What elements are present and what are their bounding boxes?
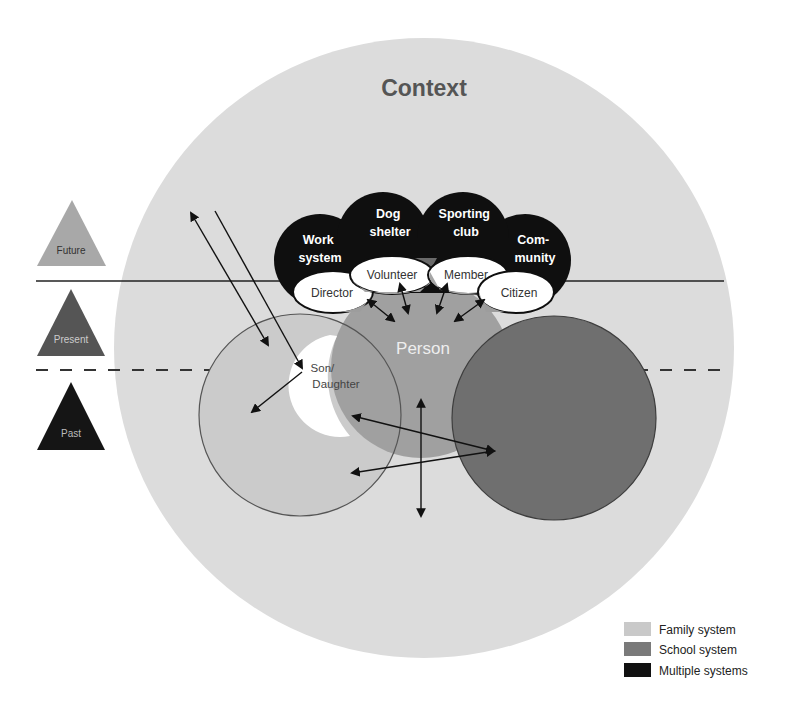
son-daughter-label-2: Daughter: [312, 378, 359, 390]
legend: Family system School system Multiple sys…: [624, 622, 748, 678]
sporting-club-label-1: Sporting: [439, 207, 490, 221]
legend-label-multiple: Multiple systems: [659, 664, 748, 678]
present-label: Present: [54, 334, 89, 345]
work-system-label-2: system: [298, 251, 341, 265]
past-label: Past: [61, 428, 81, 439]
director-label: Director: [311, 286, 353, 300]
legend-swatch-multiple: [624, 663, 651, 677]
person-label: Person: [396, 339, 450, 358]
dog-shelter-label-2: shelter: [370, 225, 411, 239]
son-daughter-label-1: Son/: [311, 362, 335, 374]
legend-label-school: School system: [659, 643, 737, 657]
citizen-role: Citizen: [478, 271, 554, 313]
citizen-label: Citizen: [501, 286, 538, 300]
future-label: Future: [57, 245, 86, 256]
school-system-circle: [452, 316, 656, 520]
work-system-label-1: Work: [303, 233, 334, 247]
volunteer-label: Volunteer: [367, 268, 418, 282]
past-triangle: Past: [37, 382, 105, 450]
legend-swatch-school: [624, 642, 651, 656]
sporting-club-label-2: club: [453, 225, 479, 239]
volunteer-role: Volunteer: [350, 256, 434, 294]
member-label: Member: [444, 268, 488, 282]
community-label-2: munity: [515, 251, 556, 265]
future-triangle: Future: [37, 200, 106, 266]
legend-label-family: Family system: [659, 623, 736, 637]
context-title: Context: [381, 75, 467, 101]
dog-shelter-label-1: Dog: [376, 207, 400, 221]
present-triangle: Present: [37, 289, 105, 356]
ecological-systems-diagram: Context Future Present Past Work system: [0, 0, 795, 720]
legend-swatch-family: [624, 622, 651, 636]
community-label-1: Com-: [517, 233, 549, 247]
